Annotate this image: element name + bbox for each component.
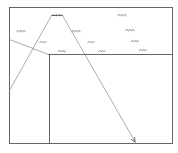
- peak-right-leg-line: [63, 16, 136, 143]
- scribble-label-4: [126, 29, 135, 30]
- frame-rect: [10, 8, 173, 144]
- scribble-labels: [17, 14, 148, 51]
- sketch-diagram: [0, 0, 178, 153]
- scribble-label-2: [17, 30, 26, 31]
- scribble-label-9: [99, 50, 106, 51]
- scribble-label-3: [72, 30, 81, 31]
- left-diagonal-line: [10, 40, 49, 55]
- scribble-label-7: [131, 40, 139, 41]
- scribble-label-6: [88, 41, 95, 42]
- diagram-svg: [0, 0, 178, 153]
- diagram-lines: [10, 16, 173, 144]
- scribble-label-1: [118, 14, 127, 15]
- scribble-label-5: [40, 41, 47, 42]
- scribble-label-8: [58, 50, 66, 51]
- outer-frame: [10, 8, 173, 144]
- scribble-label-10: [139, 49, 147, 50]
